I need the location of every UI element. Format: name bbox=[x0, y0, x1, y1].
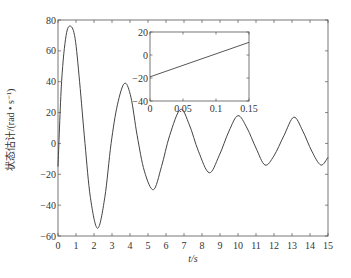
inset-x-tick-label: 0.05 bbox=[174, 103, 192, 114]
main-y-tick-label: −20 bbox=[40, 169, 56, 180]
main-x-tick-label: 8 bbox=[200, 240, 205, 251]
main-y-tick-label: 20 bbox=[46, 107, 56, 118]
main-x-tick-label: 7 bbox=[182, 240, 187, 251]
main-x-tick-label: 12 bbox=[269, 240, 279, 251]
main-y-tick-label: −40 bbox=[40, 200, 56, 211]
inset-x-tick-label: 0.1 bbox=[210, 103, 223, 114]
y-axis-label: 状态估计/(rad • s⁻¹) bbox=[4, 89, 17, 172]
main-x-tick-label: 2 bbox=[92, 240, 97, 251]
main-x-tick-label: 4 bbox=[128, 240, 133, 251]
inset-y-tick-label: 20 bbox=[138, 27, 148, 38]
main-y-tick-label: 80 bbox=[46, 15, 56, 26]
main-y-tick-label: −60 bbox=[40, 231, 56, 242]
inset-y-tick-label: −40 bbox=[132, 96, 148, 107]
inset-x-tick-label: 0.15 bbox=[240, 103, 258, 114]
inset-chart: 00.050.10.15−40−20020 bbox=[132, 27, 257, 115]
main-x-tick-label: 0 bbox=[56, 240, 61, 251]
inset-y-tick-label: −20 bbox=[132, 73, 148, 84]
main-x-tick-label: 9 bbox=[218, 240, 223, 251]
inset-y-tick-label: 0 bbox=[143, 50, 148, 61]
inset-plot-frame bbox=[150, 32, 249, 101]
main-x-tick-label: 13 bbox=[287, 240, 297, 251]
main-x-tick-label: 14 bbox=[305, 240, 315, 251]
main-x-tick-label: 5 bbox=[146, 240, 151, 251]
main-x-tick-label: 6 bbox=[164, 240, 169, 251]
main-x-tick-label: 1 bbox=[74, 240, 79, 251]
main-x-tick-label: 11 bbox=[251, 240, 261, 251]
main-x-tick-label: 10 bbox=[233, 240, 243, 251]
x-axis-label: t/s bbox=[188, 253, 198, 264]
main-y-tick-label: 60 bbox=[46, 45, 56, 56]
main-y-tick-label: 0 bbox=[51, 138, 56, 149]
main-x-tick-label: 15 bbox=[323, 240, 333, 251]
line-chart: 0123456789101112131415−60−40−20020406080… bbox=[0, 0, 351, 278]
main-x-tick-label: 3 bbox=[110, 240, 115, 251]
main-y-tick-label: 40 bbox=[46, 76, 56, 87]
inset-x-tick-label: 0 bbox=[148, 103, 153, 114]
